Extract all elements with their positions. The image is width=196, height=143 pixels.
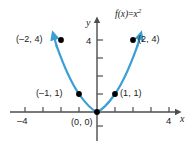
y-axis	[97, 22, 103, 141]
function-label: f(x)=x2	[115, 8, 141, 20]
curve-arrow-left	[54, 38, 57, 49]
point-label-neg1-1: (–1, 1)	[36, 89, 63, 98]
graph-figure: f(x)=x2 y x –4 4 4 (–2, 4) (–1, 1) (0, 0…	[0, 0, 196, 143]
data-point-pos1	[112, 91, 118, 97]
point-label-neg2-4: (–2, 4)	[16, 35, 43, 44]
y-tick-label-4: 4	[86, 36, 91, 46]
point-label-origin: (0, 0)	[71, 118, 93, 127]
data-point-pos2	[130, 37, 136, 43]
x-tick-label-neg4: –4	[17, 116, 28, 126]
function-name: f(x)	[115, 9, 128, 19]
data-point-neg1	[76, 91, 82, 97]
point-label-1-1: (1, 1)	[120, 89, 142, 98]
point-label-2-4: (2, 4)	[138, 35, 160, 44]
y-axis-label: y	[86, 18, 90, 28]
x-axis-label: x	[180, 114, 184, 124]
data-point-origin	[94, 109, 100, 115]
x-tick-label-4: 4	[166, 116, 171, 126]
function-exponent: 2	[138, 7, 142, 15]
data-point-neg2	[58, 37, 64, 43]
